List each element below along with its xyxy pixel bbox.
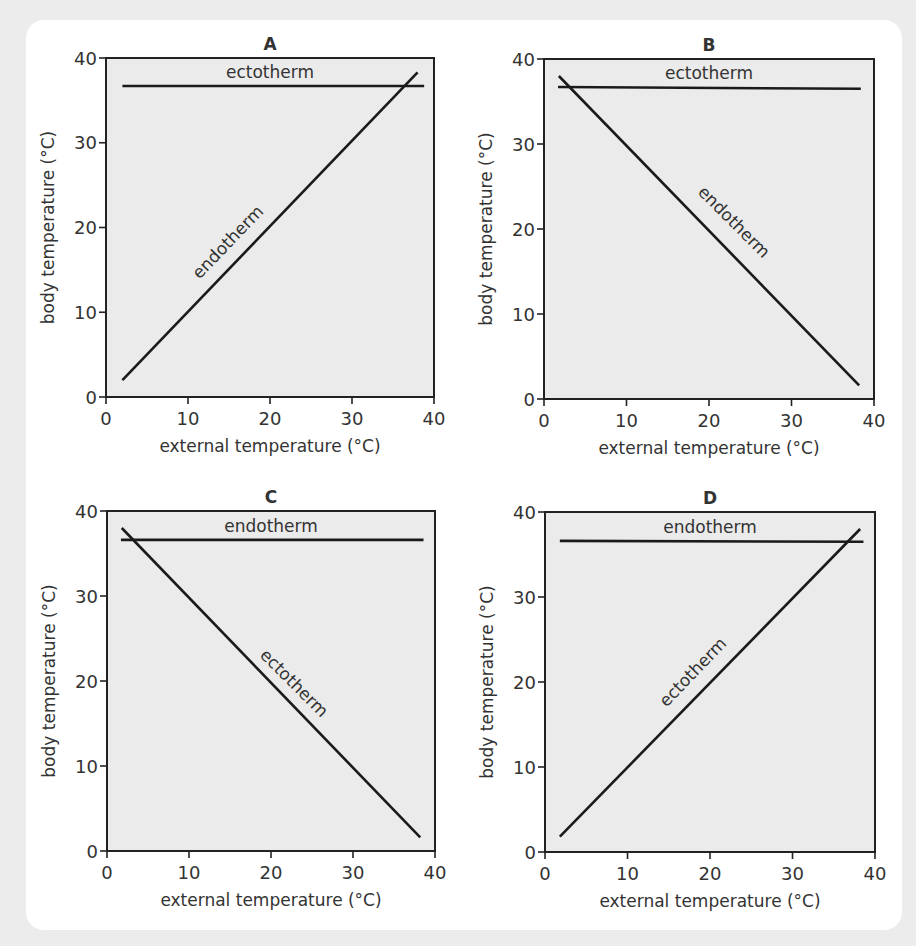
x-tick-label: 0 [100, 408, 111, 429]
x-tick-label: 10 [615, 410, 638, 431]
y-tick-label: 20 [75, 671, 98, 692]
series-label-endotherm: endotherm [663, 517, 757, 537]
y-tick-label: 40 [75, 501, 98, 522]
y-tick-label: 30 [74, 132, 97, 153]
y-tick-label: 30 [512, 134, 535, 155]
x-tick-label: 0 [539, 863, 550, 884]
x-tick-label: 40 [424, 862, 447, 883]
x-tick-label: 0 [538, 410, 549, 431]
x-tick-label: 10 [177, 408, 200, 429]
x-tick-label: 40 [864, 863, 887, 884]
x-tick-label: 30 [781, 863, 804, 884]
x-tick-label: 30 [780, 410, 803, 431]
y-tick-label: 30 [513, 587, 536, 608]
series-label-endotherm: endotherm [224, 516, 318, 536]
figure-canvas: A010203040010203040external temperature … [0, 0, 916, 946]
y-tick-label: 40 [512, 49, 535, 70]
panel-title: D [703, 488, 717, 508]
y-tick-label: 0 [524, 389, 535, 410]
series-line-endotherm [560, 541, 864, 542]
x-tick-label: 10 [178, 862, 201, 883]
y-tick-label: 40 [513, 502, 536, 523]
x-tick-label: 40 [423, 408, 446, 429]
y-axis-label: body temperature (°C) [477, 585, 497, 778]
y-tick-label: 20 [512, 219, 535, 240]
y-axis-label: body temperature (°C) [38, 131, 58, 324]
chart-panel-c: C010203040010203040external temperature … [39, 487, 446, 910]
y-axis-label: body temperature (°C) [39, 584, 59, 777]
chart-panel-b: B010203040010203040external temperature … [476, 35, 885, 458]
x-tick-label: 30 [341, 408, 364, 429]
y-axis-label: body temperature (°C) [476, 132, 496, 325]
x-tick-label: 20 [260, 862, 283, 883]
y-tick-label: 10 [513, 757, 536, 778]
x-axis-label: external temperature (°C) [599, 891, 820, 911]
x-tick-label: 0 [101, 862, 112, 883]
series-label-ectotherm: ectotherm [665, 63, 753, 83]
y-tick-label: 30 [75, 586, 98, 607]
y-tick-label: 10 [75, 756, 98, 777]
x-tick-label: 20 [259, 408, 282, 429]
x-tick-label: 40 [863, 410, 886, 431]
x-axis-label: external temperature (°C) [159, 436, 380, 456]
x-axis-label: external temperature (°C) [160, 890, 381, 910]
y-tick-label: 0 [86, 387, 97, 408]
chart-panel-d: D010203040010203040external temperature … [477, 488, 886, 911]
x-tick-label: 30 [342, 862, 365, 883]
panel-title: C [265, 487, 277, 507]
series-label-ectotherm: ectotherm [226, 62, 314, 82]
y-tick-label: 0 [87, 841, 98, 862]
y-tick-label: 20 [74, 217, 97, 238]
y-tick-label: 40 [74, 48, 97, 69]
panel-title: B [703, 35, 716, 55]
y-tick-label: 0 [525, 842, 536, 863]
y-tick-label: 10 [74, 302, 97, 323]
y-tick-label: 20 [513, 672, 536, 693]
x-tick-label: 20 [699, 863, 722, 884]
x-tick-label: 10 [616, 863, 639, 884]
chart-panel-a: A010203040010203040external temperature … [38, 34, 445, 456]
panel-title: A [263, 34, 277, 54]
y-tick-label: 10 [512, 304, 535, 325]
series-line-ectotherm [558, 87, 861, 89]
x-tick-label: 20 [698, 410, 721, 431]
x-axis-label: external temperature (°C) [598, 438, 819, 458]
